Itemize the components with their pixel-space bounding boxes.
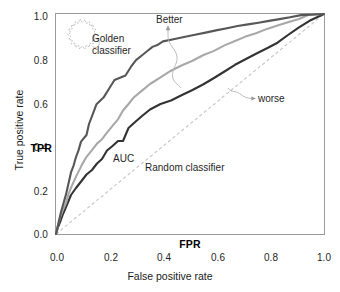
roc-chart: 1.0 0.8 0.6 0.4 0.2 0.0 0.0 0.2 0.4 0.6 …: [0, 0, 340, 292]
y-axis-abbrev-tpr: TPR: [12, 142, 52, 154]
annotation-auc: AUC: [113, 153, 134, 165]
annotation-random-classifier: Random classifier: [145, 162, 224, 174]
annotation-better: Better: [156, 14, 183, 26]
ytick-label-2: 0.8: [22, 55, 48, 66]
ytick-label-1: 1.0: [22, 11, 48, 22]
annotation-worse: worse: [258, 93, 285, 105]
annotation-golden-line1: Golden: [92, 33, 131, 45]
annotation-golden-line2: classifier: [92, 45, 131, 57]
ytick-label-3: 0.6: [22, 99, 48, 110]
xtick-label-4: 0.6: [211, 252, 225, 263]
xtick-label-5: 0.8: [264, 252, 278, 263]
annotation-golden-classifier: Golden classifier: [92, 33, 131, 56]
x-axis-abbrev-fpr: FPR: [150, 238, 230, 250]
y-axis-title: True positive rate: [13, 80, 25, 180]
ytick-label-5: 0.2: [22, 186, 48, 197]
xtick-label-6: 1.0: [317, 252, 331, 263]
xtick-label-1: 0.0: [50, 252, 64, 263]
xtick-label-2: 0.2: [104, 252, 118, 263]
x-axis-title: False positive rate: [0, 270, 340, 282]
ytick-label-6: 0.0: [22, 229, 48, 240]
xtick-label-3: 0.4: [157, 252, 171, 263]
